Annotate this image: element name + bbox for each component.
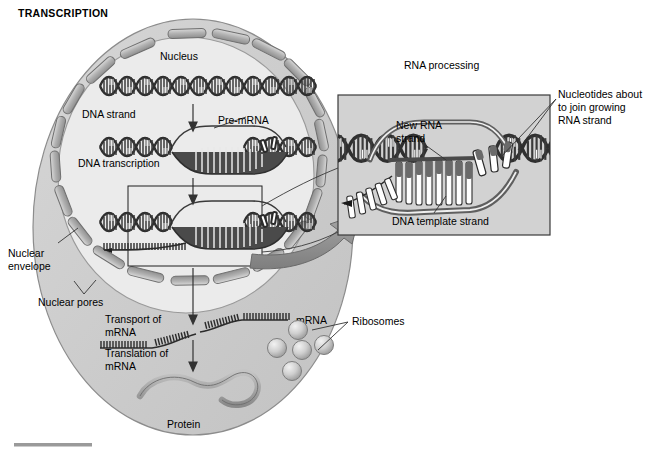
transport-label-line2: mRNA	[105, 326, 136, 338]
inset-title: RNA processing	[404, 59, 479, 71]
new-rna-strand-label-line2: strand	[396, 132, 425, 144]
dna-strand-label: DNA strand	[82, 108, 136, 120]
dna-transcription-label: DNA transcription	[78, 157, 160, 169]
ribosome	[293, 341, 312, 360]
ribosome	[268, 339, 287, 358]
bottom-rule	[14, 443, 92, 447]
nucleotides-label-line2: to join growing	[558, 101, 626, 113]
nuclear-pores-label: Nuclear pores	[38, 296, 103, 308]
nucleotides-label-line3: RNA strand	[558, 114, 612, 126]
nuclear-envelope-label-line2: envelope	[8, 260, 51, 272]
new-rna-strand-label-line1: New RNA	[396, 119, 442, 131]
transcription-diagram: TRANSCRIPTION Nucleus	[0, 0, 656, 461]
ribosomes-label: Ribosomes	[352, 315, 405, 327]
page-title: TRANSCRIPTION	[18, 7, 108, 19]
transport-label-line1: Transport of	[105, 313, 161, 325]
nucleus-label: Nucleus	[160, 50, 198, 62]
translation-label-line1: Translation of	[105, 347, 168, 359]
ribosome	[283, 362, 302, 381]
nucleotides-label-line1: Nucleotides about	[558, 88, 642, 100]
figure-canvas: TRANSCRIPTION Nucleus	[0, 0, 656, 461]
translation-label-line2: mRNA	[105, 360, 136, 372]
pre-mrna-callout: Pre-mRNA	[214, 114, 269, 128]
protein-label: Protein	[167, 418, 200, 430]
dna-template-strand-label: DNA template strand	[392, 215, 489, 227]
nuclear-envelope-label-line1: Nuclear	[8, 247, 45, 259]
pre-mrna-label: Pre-mRNA	[218, 114, 269, 126]
ribosome	[289, 321, 308, 340]
